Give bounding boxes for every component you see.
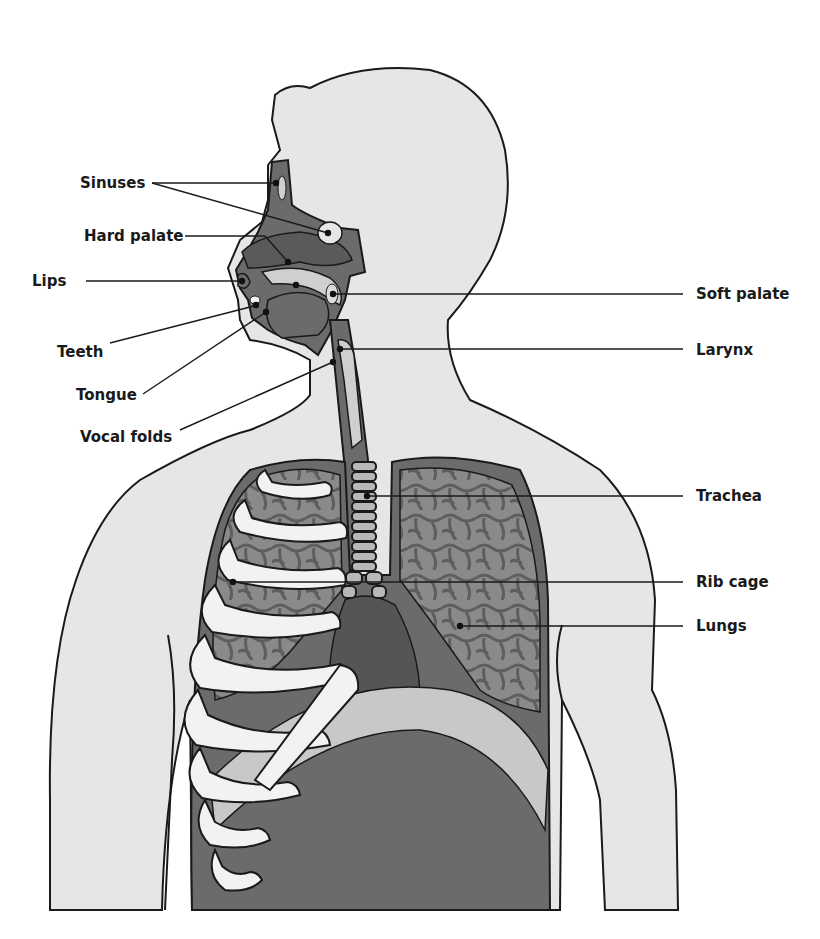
- frontal-sinus: [278, 176, 286, 200]
- label-trachea: Trachea: [696, 487, 762, 505]
- label-sinuses: Sinuses: [80, 174, 145, 192]
- label-rib-cage: Rib cage: [696, 573, 769, 591]
- label-lips: Lips: [32, 272, 66, 290]
- label-lungs: Lungs: [696, 617, 747, 635]
- label-hard-palate: Hard palate: [84, 227, 184, 245]
- label-larynx: Larynx: [696, 341, 753, 359]
- label-soft-palate: Soft palate: [696, 285, 790, 303]
- label-vocal-folds: Vocal folds: [80, 428, 172, 446]
- label-tongue: Tongue: [76, 386, 137, 404]
- tongue-shape: [267, 293, 329, 339]
- respiratory-diagram: [0, 0, 820, 939]
- label-teeth: Teeth: [57, 343, 103, 361]
